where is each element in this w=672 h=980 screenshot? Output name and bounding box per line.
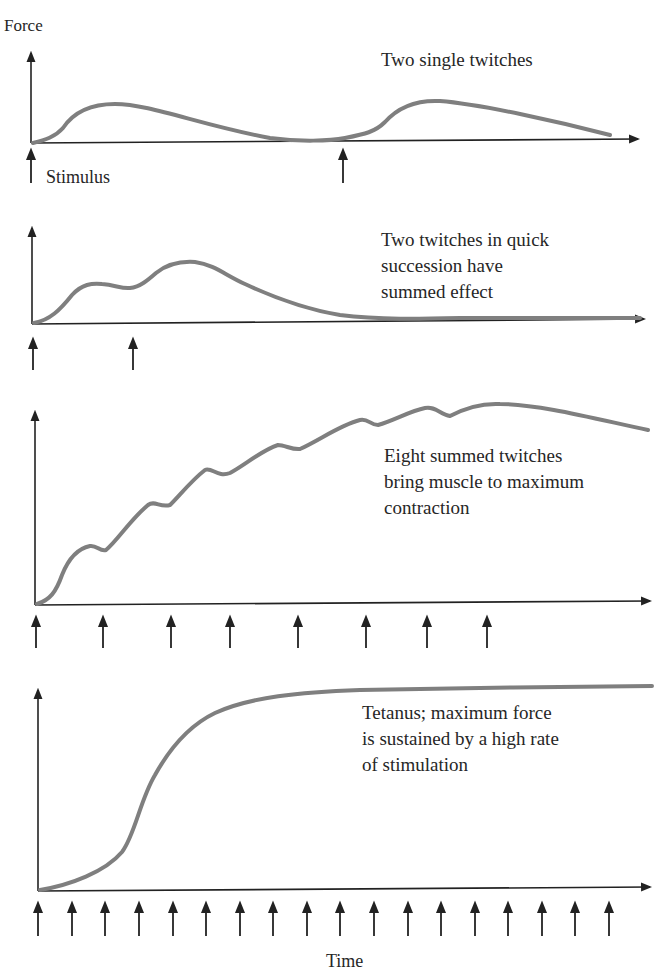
panel-tetanus: [38, 686, 652, 936]
caption-line: succession have: [381, 253, 549, 279]
caption-summed-twitches: Two twitches in quick succession have su…: [381, 227, 549, 305]
caption-line: Tetanus; maximum force: [362, 700, 559, 726]
caption-tetanus: Tetanus; maximum force is sustained by a…: [362, 700, 559, 778]
stimulus-label: Stimulus: [46, 164, 110, 190]
caption-line: is sustained by a high rate: [362, 726, 559, 752]
force-curve: [33, 101, 610, 143]
x-axis: [35, 601, 650, 605]
caption-single-twitches: Two single twitches: [381, 47, 533, 73]
panel-summed-twitches: [32, 228, 644, 370]
caption-line: of stimulation: [362, 752, 559, 778]
caption-line: Eight summed twitches: [384, 443, 584, 469]
force-curve: [40, 686, 652, 890]
caption-line: contraction: [384, 495, 584, 521]
caption-line: Two single twitches: [381, 47, 533, 73]
caption-line: bring muscle to maximum: [384, 469, 584, 495]
panel-eight-summed: [35, 404, 650, 648]
stimulus-arrows: [38, 903, 609, 936]
y-axis-label: Force: [4, 13, 43, 39]
stimulus-arrows: [33, 339, 133, 370]
x-axis: [38, 887, 650, 891]
force-curve: [34, 262, 640, 323]
stimulus-arrows: [36, 617, 487, 648]
x-axis-label: Time: [326, 948, 363, 974]
caption-eight-summed: Eight summed twitches bring muscle to ma…: [384, 443, 584, 521]
panel-single-twitches: [31, 53, 638, 183]
caption-line: Two twitches in quick: [381, 227, 549, 253]
caption-line: summed effect: [381, 279, 549, 305]
